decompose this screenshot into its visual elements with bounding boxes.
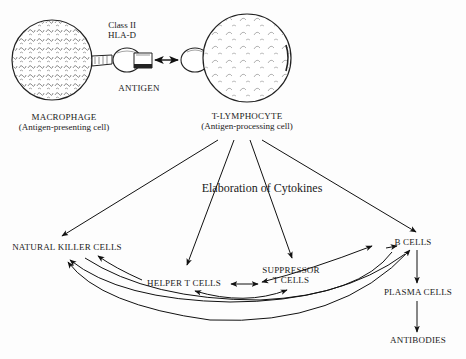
suppressor-line2: T CELLS bbox=[262, 276, 320, 286]
antibodies-label: ANTIBODIES bbox=[390, 336, 446, 346]
b-cells-label: B CELLS bbox=[394, 238, 431, 248]
t-lymphocyte-role: (Antigen-processing cell) bbox=[201, 122, 293, 132]
t-lymphocyte-cell-icon bbox=[181, 14, 291, 102]
hla-d-line2: HLA-D bbox=[108, 31, 136, 41]
suppressor-t-cells-label: SUPPRESSOR T CELLS bbox=[262, 266, 320, 286]
cytokines-label: Elaboration of Cytokines bbox=[202, 182, 323, 195]
antigen-label: ANTIGEN bbox=[118, 84, 159, 94]
plasma-cells-label: PLASMA CELLS bbox=[384, 288, 452, 298]
natural-killer-cells-label: NATURAL KILLER CELLS bbox=[12, 243, 122, 253]
helper-t-cells-label: HELPER T CELLS bbox=[147, 279, 221, 289]
immune-response-diagram bbox=[0, 0, 466, 359]
regulation-arcs bbox=[68, 246, 410, 320]
class-ii-label: Class II HLA-D bbox=[108, 21, 136, 41]
macrophage-role: (Antigen-presenting cell) bbox=[19, 123, 110, 133]
